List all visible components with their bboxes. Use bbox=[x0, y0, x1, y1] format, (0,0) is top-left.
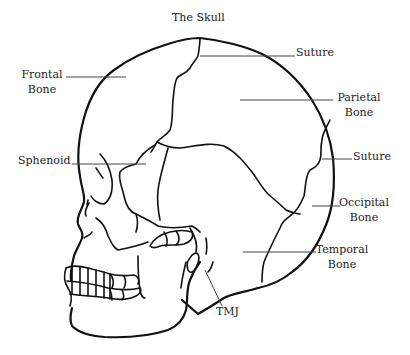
teeth bbox=[65, 266, 141, 306]
condyle bbox=[187, 253, 199, 272]
condyle-neck bbox=[181, 262, 186, 288]
zygoma-shape bbox=[150, 231, 193, 248]
mandible-ramus bbox=[138, 256, 145, 298]
mandible-outline bbox=[71, 262, 201, 337]
label-temporal-line1: Temporal bbox=[314, 242, 370, 257]
greater-wing-line bbox=[158, 148, 168, 220]
label-suture-back: Suture bbox=[353, 149, 391, 164]
orbit-inner-mark bbox=[96, 168, 103, 178]
label-occipital-line2: Bone bbox=[338, 210, 390, 225]
label-parietal-bone: Parietal Bone bbox=[334, 90, 384, 120]
label-frontal-line1: Frontal bbox=[18, 67, 66, 82]
label-occipital-bone: Occipital Bone bbox=[338, 195, 390, 225]
coronal-suture bbox=[151, 38, 200, 152]
label-temporal-bone: Temporal Bone bbox=[314, 242, 370, 272]
label-parietal-line1: Parietal bbox=[334, 90, 384, 105]
leader-tmj bbox=[205, 270, 222, 306]
sphenoid-suture bbox=[119, 145, 155, 232]
maxilla-line bbox=[96, 218, 148, 250]
label-parietal-line2: Bone bbox=[334, 105, 384, 120]
squamosal-suture bbox=[157, 142, 300, 214]
label-tmj: TMJ bbox=[216, 304, 239, 319]
ear-opening-arc-1 bbox=[206, 238, 207, 254]
ear-opening-arc-2 bbox=[208, 262, 213, 272]
label-occipital-line1: Occipital bbox=[338, 195, 390, 210]
label-temporal-line2: Bone bbox=[314, 257, 370, 272]
cheek-line bbox=[84, 232, 92, 238]
label-frontal-bone: Frontal Bone bbox=[18, 67, 66, 97]
skull-diagram bbox=[0, 0, 410, 355]
orbit-notch bbox=[87, 200, 88, 205]
orbit-outline bbox=[91, 154, 112, 204]
label-sphenoid: Sphenoid bbox=[18, 153, 70, 168]
label-suture-top: Suture bbox=[296, 45, 334, 60]
diagram-title: The Skull bbox=[172, 10, 225, 25]
label-frontal-line2: Bone bbox=[18, 82, 66, 97]
face-profile bbox=[71, 176, 84, 280]
